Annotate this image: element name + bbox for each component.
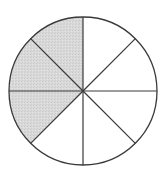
divider-lines: [9, 17, 157, 165]
fraction-circle-diagram: [0, 0, 168, 182]
